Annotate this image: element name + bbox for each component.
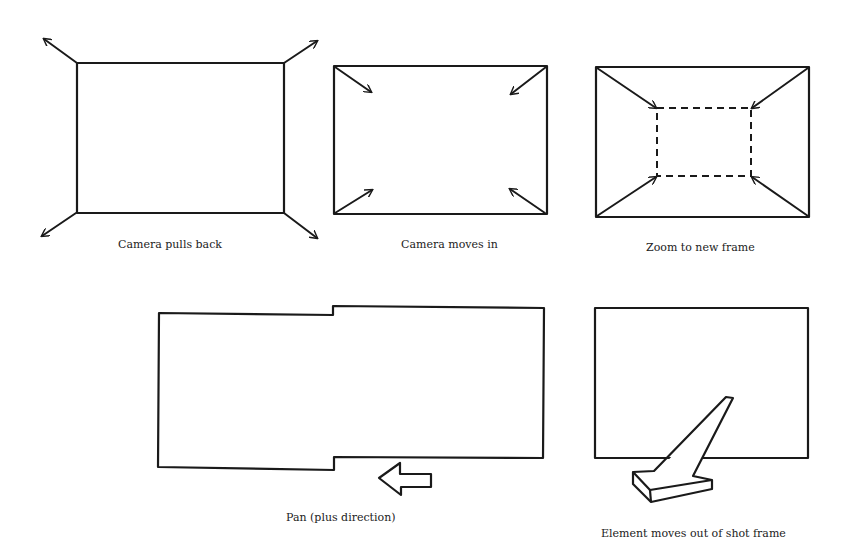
- outward-arrows-icon: [42, 39, 317, 238]
- pan-frame: [158, 306, 544, 470]
- left-arrow-icon: [379, 463, 431, 495]
- caption: Camera pulls back: [118, 238, 222, 251]
- camera-movements-diagram: Camera pulls back Camera moves in Zoom t…: [0, 0, 844, 554]
- zoom-arrows-icon: [597, 68, 808, 216]
- caption: Zoom to new frame: [646, 241, 755, 254]
- caption: Element moves out of shot frame: [601, 527, 786, 540]
- moving-element-icon: [632, 397, 733, 502]
- panel-camera-pulls-back: Camera pulls back: [42, 39, 317, 251]
- panel-pan: Pan (plus direction): [158, 306, 544, 524]
- new-frame-dashed: [657, 108, 751, 176]
- panel-zoom-to-new-frame: Zoom to new frame: [596, 67, 809, 254]
- caption: Camera moves in: [401, 238, 498, 251]
- panel-element-moves-out: Element moves out of shot frame: [595, 308, 808, 540]
- shot-frame: [77, 63, 284, 213]
- panel-camera-moves-in: Camera moves in: [334, 66, 547, 251]
- inward-arrows-icon: [335, 67, 546, 213]
- caption: Pan (plus direction): [286, 511, 396, 524]
